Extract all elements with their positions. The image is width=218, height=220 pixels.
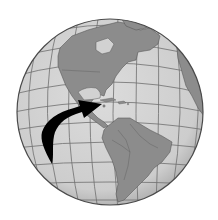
globe-svg [0, 0, 218, 220]
globe-illustration [0, 0, 218, 220]
europe-edge [164, 24, 180, 38]
